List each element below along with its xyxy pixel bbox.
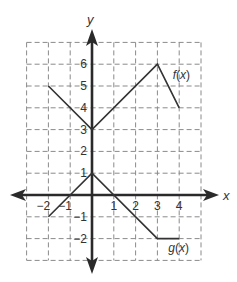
axes: x y: [10, 12, 230, 274]
coordinate-plane: x y −2−11234654321−1−2 f(x)g(x): [0, 0, 237, 282]
x-tick-label: 2: [132, 199, 139, 213]
y-tick-label: −1: [73, 210, 87, 224]
y-tick-label: 5: [80, 79, 87, 93]
x-tick-label: 3: [154, 199, 161, 213]
y-tick-label: 4: [80, 101, 87, 115]
function-curves: f(x)g(x): [48, 64, 190, 254]
x-axis-label: x: [222, 188, 230, 203]
f-curve: [48, 64, 179, 129]
x-tick-label: −2: [37, 199, 51, 213]
y-tick-label: −2: [73, 232, 87, 246]
f-label: f(x): [173, 68, 190, 82]
x-tick-label: −1: [58, 199, 72, 213]
g-label: g(x): [168, 241, 189, 255]
x-tick-label: 4: [176, 199, 183, 213]
y-tick-label: 6: [80, 57, 87, 71]
y-tick-label: 2: [80, 144, 87, 158]
x-tick-label: 1: [110, 199, 117, 213]
y-axis-label: y: [86, 12, 95, 27]
